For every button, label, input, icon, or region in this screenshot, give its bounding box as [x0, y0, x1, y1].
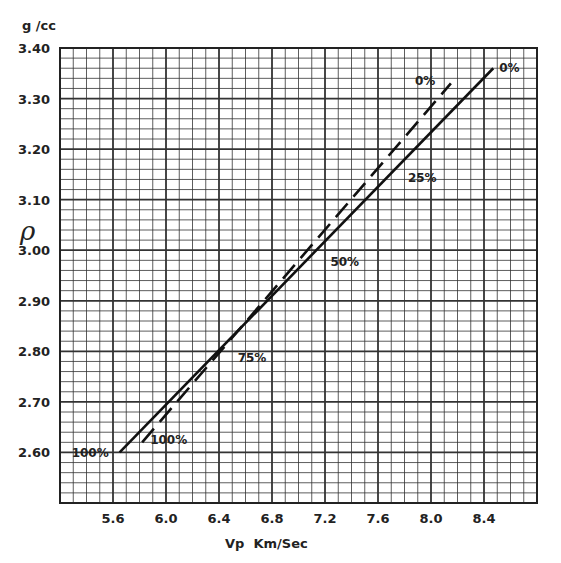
annotation-label: 75% — [238, 351, 267, 365]
x-tick-label: 6.4 — [207, 511, 230, 526]
y-tick-label: 2.70 — [18, 395, 50, 410]
x-tick-label: 6.8 — [260, 511, 283, 526]
x-tick-label: 5.6 — [101, 511, 124, 526]
y-tick-label: 3.40 — [18, 41, 50, 56]
y-tick-label: 3.10 — [18, 193, 50, 208]
data-lines: 100%75%50%25%0%100%0% — [72, 61, 520, 460]
x-tick-label: 7.6 — [366, 511, 389, 526]
annotation-label: 0% — [499, 61, 519, 75]
annotation-label: 25% — [408, 171, 437, 185]
y-tick-label: 2.80 — [18, 344, 50, 359]
annotation-label: 100% — [72, 446, 109, 460]
x-tick-label: 7.2 — [313, 511, 336, 526]
y-tick-label: 3.20 — [18, 142, 50, 157]
y-tick-label: 2.60 — [18, 445, 50, 460]
y-unit-label: g /cc — [22, 18, 56, 33]
annotation-label: 100% — [150, 433, 187, 447]
velocity-density-chart: 100%75%50%25%0%100%0% 5.66.06.46.87.27.6… — [0, 0, 561, 563]
x-tick-label: 8.4 — [472, 511, 495, 526]
annotation-label: 0% — [415, 74, 435, 88]
annotation-label: 50% — [330, 255, 359, 269]
y-tick-label: 2.90 — [18, 294, 50, 309]
grid — [60, 48, 537, 503]
x-axis-label: Vp Km/Sec — [225, 536, 308, 551]
y-tick-label: 3.30 — [18, 92, 50, 107]
x-tick-label: 8.0 — [419, 511, 442, 526]
y-axis-label: ρ — [19, 216, 36, 246]
x-tick-label: 6.0 — [154, 511, 177, 526]
